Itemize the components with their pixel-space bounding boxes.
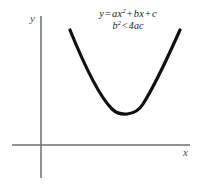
equation-annotation: y=ax2+bx+c b2<4ac xyxy=(66,8,190,32)
discriminant-rhs: 4ac xyxy=(129,20,144,31)
equation-line-quadratic: y=ax2+bx+c xyxy=(66,8,190,20)
less-than-sign: < xyxy=(121,20,129,31)
parabola-figure: y x y=ax2+bx+c b2<4ac xyxy=(0,0,198,187)
plus-sign-2: + xyxy=(144,8,152,19)
parabola-curve xyxy=(70,30,180,114)
y-axis-label: y xyxy=(30,13,35,24)
equation-line-discriminant: b2<4ac xyxy=(66,20,190,32)
term3-constant: c xyxy=(152,8,157,19)
plus-sign-1: + xyxy=(126,8,134,19)
x-axis-label: x xyxy=(183,147,188,158)
equals-sign: = xyxy=(104,8,112,19)
